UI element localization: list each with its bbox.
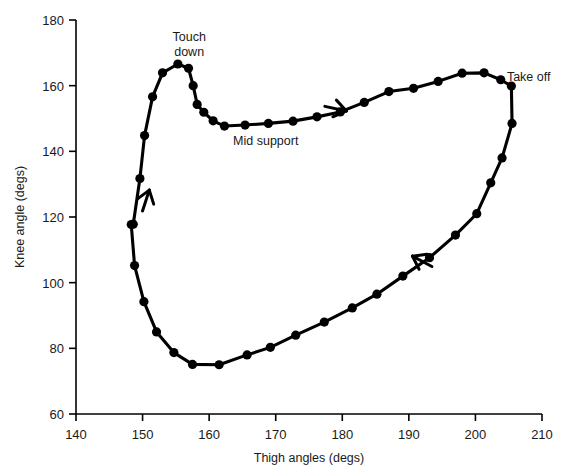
x-axis-ticks	[76, 414, 542, 421]
x-tick-label: 170	[265, 427, 287, 442]
data-point	[479, 68, 488, 77]
data-point	[199, 108, 208, 117]
x-tick-label: 160	[198, 427, 220, 442]
data-point	[135, 174, 144, 183]
data-point	[320, 317, 329, 326]
y-axis-tick-labels: 6080100120140160180	[42, 13, 64, 422]
y-tick-label: 100	[42, 276, 64, 291]
x-axis-tick-labels: 140150160170180190200210	[65, 427, 553, 442]
y-tick-label: 180	[42, 13, 64, 28]
data-point	[189, 81, 198, 90]
x-tick-label: 180	[331, 427, 353, 442]
data-point	[472, 209, 481, 218]
touch-down-label: Touchdown	[172, 30, 205, 59]
data-point	[409, 84, 418, 93]
data-point	[130, 261, 139, 270]
y-axis: 6080100120140160180 Knee angle (degs)	[13, 13, 76, 422]
data-point	[173, 59, 182, 68]
data-point	[220, 121, 229, 130]
y-axis-ticks	[69, 20, 76, 414]
data-point	[240, 120, 249, 129]
data-series-group	[127, 59, 517, 369]
data-point	[497, 153, 506, 162]
data-point	[360, 98, 369, 107]
data-point	[152, 327, 161, 336]
annotation-line: down	[174, 45, 204, 59]
x-tick-label: 200	[465, 427, 487, 442]
y-tick-label: 160	[42, 79, 64, 94]
data-point	[312, 112, 321, 121]
data-point	[451, 230, 460, 239]
data-point	[169, 348, 178, 357]
take-off-label: Take off	[507, 70, 551, 84]
y-tick-label: 80	[50, 341, 64, 356]
chart-canvas: 6080100120140160180 Knee angle (degs) 14…	[0, 0, 570, 474]
data-point	[127, 220, 136, 229]
data-point	[266, 343, 275, 352]
data-point	[507, 119, 516, 128]
data-point	[242, 350, 251, 359]
data-point	[291, 331, 300, 340]
data-point	[434, 77, 443, 86]
data-point	[215, 360, 224, 369]
data-point	[209, 116, 218, 125]
data-point	[264, 119, 273, 128]
data-point	[148, 92, 157, 101]
y-tick-label: 120	[42, 210, 64, 225]
x-tick-label: 150	[132, 427, 154, 442]
annotation-line: Take off	[507, 70, 551, 84]
y-axis-title: Knee angle (degs)	[13, 166, 27, 268]
data-point	[384, 87, 393, 96]
data-point	[193, 100, 202, 109]
mid-support-label: Mid support	[233, 134, 299, 148]
x-axis: 140150160170180190200210 Thigh angles (d…	[65, 414, 553, 465]
annotation-line: Mid support	[233, 134, 299, 148]
data-point-group	[127, 59, 517, 369]
x-tick-label: 210	[531, 427, 553, 442]
data-point	[288, 117, 297, 126]
y-tick-label: 60	[50, 407, 64, 422]
data-point	[158, 68, 167, 77]
data-point	[486, 178, 495, 187]
data-point	[348, 303, 357, 312]
data-point	[398, 272, 407, 281]
x-tick-label: 190	[398, 427, 420, 442]
annotation-line: Touch	[172, 30, 205, 44]
y-tick-label: 140	[42, 144, 64, 159]
angle-angle-chart: 6080100120140160180 Knee angle (degs) 14…	[0, 0, 570, 474]
x-axis-title: Thigh angles (degs)	[254, 451, 364, 465]
data-point	[496, 75, 505, 84]
annotations-group: TouchdownMid supportTake off	[172, 30, 550, 147]
direction-arrows-group	[134, 98, 435, 274]
data-point	[184, 64, 193, 73]
data-point	[139, 297, 148, 306]
data-point	[140, 131, 149, 140]
data-point	[188, 360, 197, 369]
data-point	[372, 290, 381, 299]
data-point	[458, 69, 467, 78]
x-tick-label: 140	[65, 427, 87, 442]
